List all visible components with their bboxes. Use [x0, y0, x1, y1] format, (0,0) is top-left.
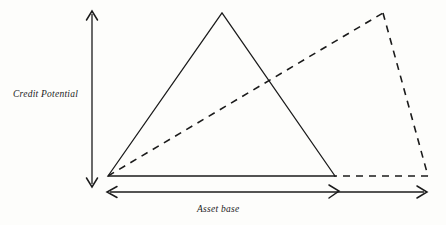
- dashed-diagonal-edge: [108, 13, 383, 176]
- vertical-axis-group: [87, 11, 98, 187]
- solid-triangle-shape: [108, 13, 335, 176]
- horizontal-axis-group: [107, 185, 427, 198]
- vertical-axis-label: Credit Potential: [13, 90, 78, 100]
- diagram-canvas: Credit Potential Asset base: [0, 0, 446, 225]
- dashed-right-edge: [383, 13, 428, 176]
- diagram-svg: [0, 0, 446, 225]
- dashed-quadrilateral-shape: [108, 13, 428, 176]
- horizontal-axis-label: Asset base: [197, 205, 239, 215]
